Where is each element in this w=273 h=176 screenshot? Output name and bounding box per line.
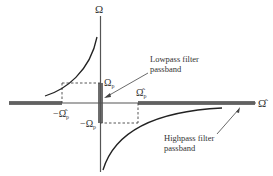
upper-warping-curve (45, 37, 97, 96)
lowpass-annotation-line2: passband (150, 64, 182, 74)
warping-diagram: Ω Ω̂ Ωp −Ωp Ω̂p −Ω̂p Lowpass filter pass… (0, 0, 273, 176)
lowpass-annotation-line1: Lowpass filter (150, 54, 199, 64)
omega-hat-p-label: Ω̂p (136, 87, 146, 99)
highpass-annotation-line1: Highpass filter (164, 133, 214, 143)
vertical-axis-label: Ω (95, 3, 103, 15)
highpass-arrow (217, 107, 240, 134)
horizontal-axis-label: Ω̂ (258, 97, 268, 109)
neg-omega-hat-p-label: −Ω̂p (53, 108, 69, 120)
neg-omega-p-label: −Ωp (80, 118, 96, 130)
highpass-annotation-line2: passband (164, 143, 196, 153)
omega-p-label: Ωp (104, 77, 114, 89)
